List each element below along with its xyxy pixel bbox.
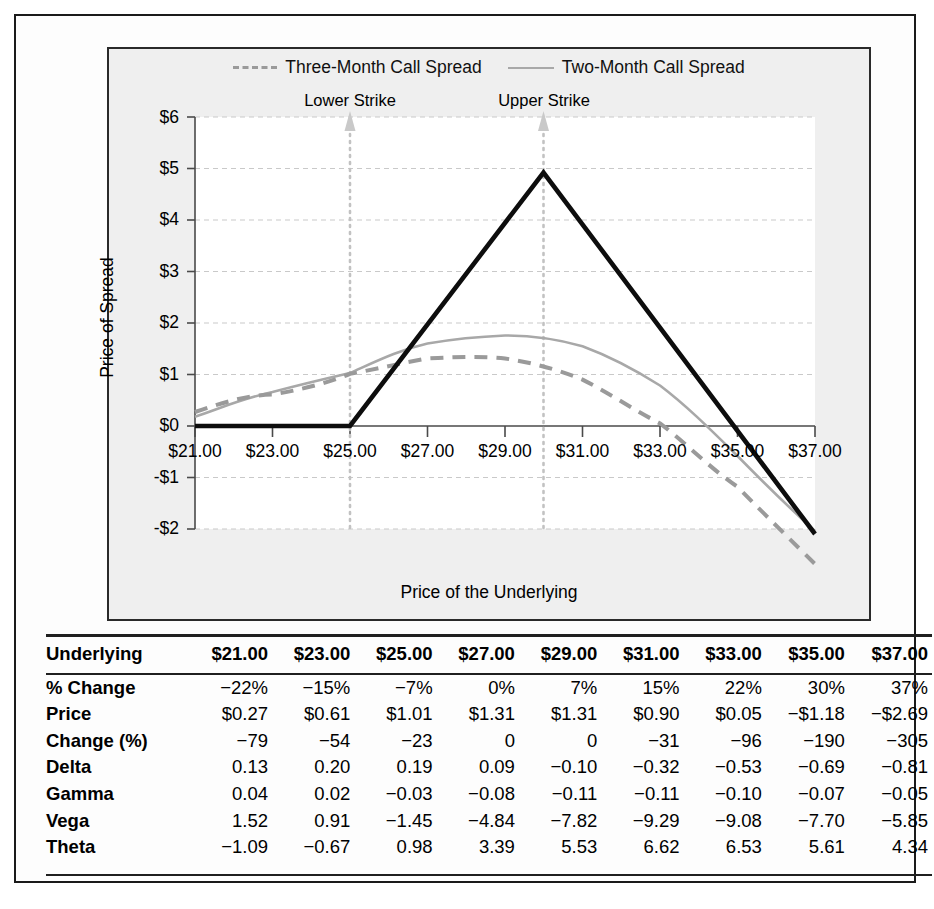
cell: −$2.69 xyxy=(849,701,932,728)
cell: −4.84 xyxy=(437,808,519,835)
table-header-col-3: $27.00 xyxy=(437,636,519,674)
cell: −9.29 xyxy=(601,808,683,835)
cell: 7% xyxy=(519,674,601,702)
table-header-col-4: $29.00 xyxy=(519,636,601,674)
cell: 0 xyxy=(437,728,519,755)
cell: −0.69 xyxy=(766,754,849,781)
cell: −$1.18 xyxy=(766,701,849,728)
cell: 5.61 xyxy=(766,834,849,861)
cell: −9.08 xyxy=(684,808,766,835)
y-tick-3: $3 xyxy=(115,261,179,282)
cell: 0.13 xyxy=(190,754,272,781)
y-axis-title: Price of Spread xyxy=(97,257,118,378)
cell: −1.45 xyxy=(354,808,436,835)
cell: −7.70 xyxy=(766,808,849,835)
cell: −79 xyxy=(190,728,272,755)
cell: 0.02 xyxy=(272,781,354,808)
cell: 0.19 xyxy=(354,754,436,781)
cell: −15% xyxy=(272,674,354,702)
plot-svg xyxy=(109,49,873,623)
x-tick-37: $37.00 xyxy=(771,441,859,462)
x-tick-21: $21.00 xyxy=(151,441,239,462)
cell: −7.82 xyxy=(519,808,601,835)
plot-area: $6 $5 $4 $3 $2 $1 $0 -$1 -$2 $21.00 $23.… xyxy=(109,49,869,619)
cell: −305 xyxy=(849,728,932,755)
figure-outer-frame: Three-Month Call Spread Two-Month Call S… xyxy=(14,14,916,883)
cell: 6.62 xyxy=(601,834,683,861)
cell: −0.07 xyxy=(766,781,849,808)
cell: 30% xyxy=(766,674,849,702)
y-tick-2: $2 xyxy=(115,312,179,333)
x-tick-31: $31.00 xyxy=(539,441,627,462)
cell: 6.53 xyxy=(684,834,766,861)
cell: 0% xyxy=(437,674,519,702)
cell: 5.53 xyxy=(519,834,601,861)
y-tick-4: $4 xyxy=(115,209,179,230)
cell: $1.31 xyxy=(437,701,519,728)
table-row: Theta −1.09 −0.67 0.98 3.39 5.53 6.62 6.… xyxy=(46,834,932,861)
x-tick-27: $27.00 xyxy=(384,441,472,462)
row-label-delta: Delta xyxy=(46,754,190,781)
cell: −0.05 xyxy=(849,781,932,808)
cell: $1.01 xyxy=(354,701,436,728)
x-tick-35: $35.00 xyxy=(694,441,782,462)
y-tick-6: $6 xyxy=(115,107,179,128)
table-header-col-5: $31.00 xyxy=(601,636,683,674)
cell: −0.81 xyxy=(849,754,932,781)
cell: $0.61 xyxy=(272,701,354,728)
cell: −0.10 xyxy=(519,754,601,781)
cell: −96 xyxy=(684,728,766,755)
y-tick-1: $1 xyxy=(115,364,179,385)
table-header-underlying: Underlying xyxy=(46,636,190,674)
upper-strike-label: Upper Strike xyxy=(474,91,614,110)
cell: 0.04 xyxy=(190,781,272,808)
cell: −1.09 xyxy=(190,834,272,861)
table-row: Price $0.27 $0.61 $1.01 $1.31 $1.31 $0.9… xyxy=(46,701,932,728)
row-label-change-pct: Change (%) xyxy=(46,728,190,755)
cell: 0.98 xyxy=(354,834,436,861)
cell: 0.09 xyxy=(437,754,519,781)
y-tick-0: $0 xyxy=(115,415,179,436)
table-row: Gamma 0.04 0.02 −0.03 −0.08 −0.11 −0.11 … xyxy=(46,781,932,808)
cell: −31 xyxy=(601,728,683,755)
table-header-col-7: $35.00 xyxy=(766,636,849,674)
greeks-table-container: Underlying $21.00 $23.00 $25.00 $27.00 $… xyxy=(46,634,932,861)
table-bottom-rule xyxy=(46,874,932,876)
cell: 4.34 xyxy=(849,834,932,861)
x-tick-33: $33.00 xyxy=(616,441,704,462)
table-body: % Change −22% −15% −7% 0% 7% 15% 22% 30%… xyxy=(46,674,932,861)
cell: 3.39 xyxy=(437,834,519,861)
table-header-col-1: $23.00 xyxy=(272,636,354,674)
table-row: % Change −22% −15% −7% 0% 7% 15% 22% 30%… xyxy=(46,674,932,702)
x-tick-23: $23.00 xyxy=(229,441,317,462)
cell: $0.05 xyxy=(684,701,766,728)
table-header-col-6: $33.00 xyxy=(684,636,766,674)
y-tick-neg1: -$1 xyxy=(115,467,179,488)
cell: −0.11 xyxy=(519,781,601,808)
cell: −22% xyxy=(190,674,272,702)
cell: −0.67 xyxy=(272,834,354,861)
cell: 1.52 xyxy=(190,808,272,835)
table-header-col-0: $21.00 xyxy=(190,636,272,674)
cell: 37% xyxy=(849,674,932,702)
table-header-col-2: $25.00 xyxy=(354,636,436,674)
y-tick-neg2: -$2 xyxy=(115,518,179,539)
cell: −7% xyxy=(354,674,436,702)
cell: −0.32 xyxy=(601,754,683,781)
row-label-price: Price xyxy=(46,701,190,728)
chart-panel: Three-Month Call Spread Two-Month Call S… xyxy=(107,47,871,621)
cell: −0.53 xyxy=(684,754,766,781)
cell: −0.03 xyxy=(354,781,436,808)
lower-strike-label: Lower Strike xyxy=(280,91,420,110)
cell: −0.11 xyxy=(601,781,683,808)
y-axis xyxy=(187,117,195,529)
cell: −190 xyxy=(766,728,849,755)
table-header-col-8: $37.00 xyxy=(849,636,932,674)
table-row: Delta 0.13 0.20 0.19 0.09 −0.10 −0.32 −0… xyxy=(46,754,932,781)
y-tick-5: $5 xyxy=(115,158,179,179)
cell: 15% xyxy=(601,674,683,702)
x-axis-title: Price of the Underlying xyxy=(109,582,869,603)
cell: $1.31 xyxy=(519,701,601,728)
greeks-table: Underlying $21.00 $23.00 $25.00 $27.00 $… xyxy=(46,634,932,861)
row-label-theta: Theta xyxy=(46,834,190,861)
